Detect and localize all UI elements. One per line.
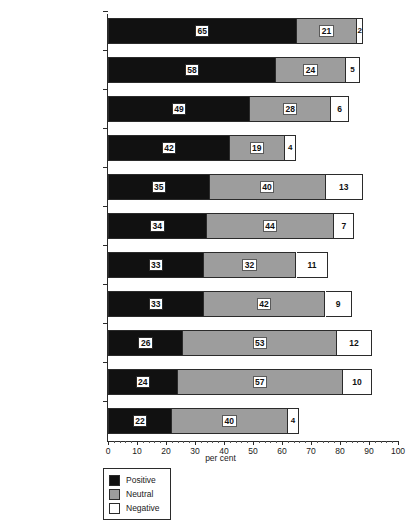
y-axis-tick — [103, 362, 108, 363]
x-axis-minor-tick — [334, 441, 335, 443]
bar-segment-negative: 9 — [326, 291, 352, 317]
bar-segment-value: 42 — [162, 142, 176, 155]
bar-segment-negative: 12 — [337, 330, 372, 356]
bar-segment-value: 49 — [172, 103, 186, 116]
x-axis-minor-tick — [357, 441, 358, 443]
bar-segment-value: 40 — [222, 415, 236, 428]
y-axis-tick — [103, 167, 108, 168]
bar-segment-value: 42 — [257, 298, 271, 311]
bar-segment-negative: 7 — [334, 213, 354, 239]
x-axis-minor-tick — [323, 441, 324, 443]
bar-segment-positive: 34 — [108, 213, 207, 239]
bar-segment-value: 7 — [340, 221, 348, 232]
bar-segment-value: 6 — [336, 104, 344, 115]
x-axis-tick — [166, 441, 167, 445]
y-axis-tick — [103, 11, 108, 12]
bar-segment-value: 58 — [185, 64, 199, 77]
x-axis-minor-tick — [114, 441, 115, 443]
x-axis-minor-tick — [270, 441, 271, 443]
x-axis-title-text: per cent — [205, 453, 236, 463]
x-axis-minor-tick — [241, 441, 242, 443]
bar-segment-negative: 4 — [285, 135, 297, 161]
bar-segment-value: 4 — [291, 417, 295, 425]
x-axis-tick — [108, 441, 109, 445]
bar-segment-neutral: 28 — [250, 96, 331, 122]
bar-track: 65212 — [108, 18, 363, 44]
bar-segment-neutral: 42 — [204, 291, 326, 317]
bar-track: 58245 — [108, 57, 360, 83]
y-axis-tick — [103, 401, 108, 402]
bar-segment-value: 35 — [152, 181, 166, 194]
y-axis-tick — [103, 245, 108, 246]
x-axis-minor-tick — [131, 441, 132, 443]
bar-segment-value: 32 — [242, 259, 256, 272]
x-axis-minor-tick — [143, 441, 144, 443]
x-axis-minor-tick — [363, 441, 364, 443]
bar-segment-value: 53 — [253, 337, 267, 350]
bar-segment-neutral: 40 — [172, 408, 288, 434]
legend-label-neutral: Neutral — [126, 489, 153, 499]
bar-segment-value: 24 — [136, 376, 150, 389]
bar-segment-value: 33 — [149, 259, 163, 272]
bar-segment-value: 26 — [138, 337, 152, 350]
legend-label-negative: Negative — [126, 503, 160, 513]
bar-segment-neutral: 19 — [230, 135, 285, 161]
legend-label-positive: Positive — [126, 475, 156, 485]
bar-segment-positive: 22 — [108, 408, 172, 434]
x-axis-minor-tick — [160, 441, 161, 443]
bar-segment-value: 5 — [350, 66, 354, 74]
x-axis-minor-tick — [218, 441, 219, 443]
bar-track: 22404 — [108, 408, 299, 434]
bar-segment-neutral: 44 — [207, 213, 335, 239]
legend-item-positive: Positive — [109, 473, 160, 487]
bar-track: 265312 — [108, 330, 372, 356]
bar-segment-value: 4 — [288, 144, 292, 152]
x-axis-minor-tick — [352, 441, 353, 443]
bar-track: 354013 — [108, 174, 363, 200]
bar-segment-neutral: 57 — [178, 369, 343, 395]
x-axis-minor-tick — [201, 441, 202, 443]
y-axis-tick — [103, 89, 108, 90]
x-axis-minor-tick — [207, 441, 208, 443]
x-axis-tick — [398, 441, 399, 445]
x-axis-minor-tick — [120, 441, 121, 443]
x-axis-title: per cent — [0, 453, 413, 463]
x-axis-minor-tick — [265, 441, 266, 443]
bar-track: 49286 — [108, 96, 349, 122]
legend-item-neutral: Neutral — [109, 487, 160, 501]
x-axis-tick — [369, 441, 370, 445]
bar-segment-positive: 26 — [108, 330, 183, 356]
x-axis-minor-tick — [317, 441, 318, 443]
x-axis-tick — [195, 441, 196, 445]
bar-segment-value: 2 — [358, 27, 362, 35]
bar-segment-negative: 4 — [288, 408, 300, 434]
bar-segment-positive: 65 — [108, 18, 297, 44]
bar-segment-value: 34 — [150, 220, 164, 233]
x-axis-minor-tick — [288, 441, 289, 443]
bar-segment-neutral: 24 — [276, 57, 346, 83]
x-axis-minor-tick — [236, 441, 237, 443]
x-axis-minor-tick — [259, 441, 260, 443]
x-axis-tick — [137, 441, 138, 445]
bar-segment-value: 33 — [149, 298, 163, 311]
x-axis-minor-tick — [392, 441, 393, 443]
x-axis-minor-tick — [375, 441, 376, 443]
bar-segment-value: 12 — [348, 338, 360, 349]
bar-segment-negative: 10 — [343, 369, 372, 395]
x-axis-minor-tick — [276, 441, 277, 443]
bar-segment-neutral: 21 — [297, 18, 358, 44]
y-axis-tick — [103, 323, 108, 324]
legend-swatch-negative-icon — [109, 503, 120, 514]
bar-segment-value: 9 — [334, 299, 342, 310]
x-axis-minor-tick — [346, 441, 347, 443]
legend-swatch-positive-icon — [109, 475, 120, 486]
legend-swatch-neutral-icon — [109, 489, 120, 500]
bar-segment-neutral: 32 — [204, 252, 297, 278]
bar-segment-value: 10 — [351, 377, 363, 388]
bar-track: 42194 — [108, 135, 297, 161]
bar-segment-value: 19 — [250, 142, 264, 155]
bar-segment-value: 65 — [195, 25, 209, 38]
x-axis-minor-tick — [386, 441, 387, 443]
y-axis-tick — [103, 50, 108, 51]
bar-segment-value: 40 — [260, 181, 274, 194]
